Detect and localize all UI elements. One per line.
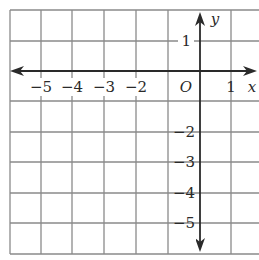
x-tick-label--3: −3 [93,78,115,96]
y-tick-label--2: −2 [173,123,195,141]
x-tick-label--4: −4 [61,78,83,96]
y-axis-label: y [210,10,220,28]
y-tick-label--5: −5 [173,214,195,232]
y-tick-label-1: 1 [181,32,191,50]
x-tick-label-1: 1 [226,78,236,96]
origin-label: O [180,78,192,96]
x-tick-label--5: −5 [30,78,52,96]
y-tick-label--3: −3 [173,153,195,171]
x-axis [10,66,257,76]
x-axis-label: x [248,78,257,96]
coordinate-plane: −5 −4 −3 −2 1 O x y 1 −2 −3 −4 −5 [0,0,259,260]
grid [10,10,259,254]
x-tick-label--2: −2 [125,78,147,96]
y-tick-label--4: −4 [173,184,195,202]
